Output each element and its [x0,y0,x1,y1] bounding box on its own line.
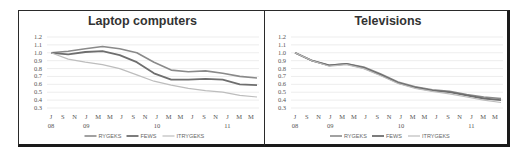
x-tick-label: S [132,113,136,120]
x-tick-label: J [120,113,123,120]
legend-label: RYGEKS [99,133,122,139]
x-year-label: 08 [48,122,55,129]
y-tick-label: 0.9 [278,57,286,64]
y-tick-label: 0.5 [34,88,42,95]
x-tick-label: J [85,113,88,120]
y-tick-label: 0.7 [34,72,43,79]
x-tick-label: M [351,113,357,120]
y-tick-label: 0.8 [34,65,42,72]
y-tick-label: 0.8 [278,65,286,72]
x-tick-label: M [492,113,498,120]
x-tick-label: M [166,113,172,120]
y-tick-label: 1.2 [278,33,286,40]
televisions-chart-panel: Televisions1.21.11.00.90.80.70.60.50.40.… [264,10,510,147]
y-tick-label: 1.1 [278,41,286,48]
laptop-chart-panel: Laptop computers1.21.11.00.90.80.70.60.5… [18,10,265,147]
series-line-itrygeks [51,53,257,97]
series-line-fews [51,51,257,85]
laptop-line-chart: Laptop computers1.21.11.00.90.80.70.60.5… [19,11,266,148]
x-tick-label: M [95,113,101,120]
x-tick-label: J [50,113,53,120]
x-tick-label: J [470,113,473,120]
x-tick-label: S [446,113,450,120]
y-tick-label: 0.7 [278,72,287,79]
x-tick-label: J [226,113,229,120]
x-tick-label: N [387,113,392,120]
x-year-label: 11 [468,122,474,129]
y-tick-label: 0.5 [278,88,286,95]
televisions-line-chart: Televisions1.21.11.00.90.80.70.60.50.40.… [265,11,511,148]
x-year-label: 10 [398,122,405,129]
x-tick-label: S [202,113,206,120]
y-tick-label: 0.3 [34,104,42,111]
chart-title: Laptop computers [88,14,197,28]
y-tick-label: 1.0 [34,49,42,56]
x-tick-label: M [410,113,416,120]
x-tick-label: J [435,113,438,120]
x-year-label: 10 [154,122,161,129]
x-tick-label: J [400,113,403,120]
y-tick-label: 1.2 [34,33,42,40]
x-tick-label: N [457,113,462,120]
legend-label: FEWS [386,133,402,139]
x-tick-label: S [376,113,380,120]
x-tick-label: J [364,113,367,120]
x-tick-label: M [107,113,113,120]
x-tick-label: N [72,113,77,120]
x-tick-label: S [61,113,65,120]
x-tick-label: M [178,113,184,120]
legend-label: ITRYGEKS [177,133,205,139]
x-year-label: 09 [327,122,334,129]
x-tick-label: J [156,113,159,120]
y-tick-label: 0.4 [34,96,43,103]
x-tick-label: N [316,113,321,120]
x-tick-label: M [248,113,254,120]
x-year-label: 11 [224,122,230,129]
x-year-label: 08 [292,122,299,129]
y-tick-label: 0.9 [34,57,42,64]
x-tick-label: M [339,113,345,120]
y-tick-label: 0.4 [278,96,287,103]
legend-label: RYGEKS [344,133,367,139]
series-line-rygeks [295,53,501,99]
x-tick-label: J [191,113,194,120]
x-tick-label: J [294,113,297,120]
x-tick-label: M [480,113,486,120]
x-tick-label: S [305,113,309,120]
x-tick-label: J [329,113,332,120]
y-tick-label: 0.3 [278,104,286,111]
x-tick-label: M [422,113,428,120]
y-tick-label: 1.0 [278,49,286,56]
x-tick-label: N [213,113,218,120]
y-tick-label: 0.6 [278,80,287,87]
x-tick-label: M [236,113,242,120]
y-tick-label: 1.1 [34,41,42,48]
legend-label: ITRYGEKS [422,133,450,139]
legend-label: FEWS [141,133,157,139]
x-year-label: 09 [83,122,90,129]
y-tick-label: 0.6 [34,80,43,87]
chart-title: Televisions [354,14,421,28]
x-tick-label: N [143,113,148,120]
